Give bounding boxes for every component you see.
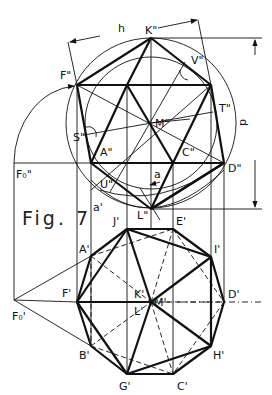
label-K2: K": [145, 24, 157, 37]
label-B1: B': [79, 349, 90, 362]
label-I1: I': [214, 243, 220, 256]
label-M2: M": [155, 117, 170, 130]
label-F0-1: F₀': [12, 310, 26, 323]
label-M1: M': [154, 296, 167, 309]
label-J1: J': [112, 215, 119, 228]
label-h: h: [118, 22, 125, 35]
label-G1: G': [119, 380, 131, 393]
label-U2: U": [100, 178, 113, 191]
label-D2: D": [228, 162, 242, 175]
label-L1: L': [134, 305, 143, 318]
icosahedron-construction-diagram: h K" V" F" T" M" d S" A" C" F₀" D" a U" …: [0, 0, 272, 395]
label-K1: K': [134, 288, 144, 301]
label-E1: E': [176, 215, 186, 228]
top-view: [14, 229, 262, 374]
label-a: a: [154, 168, 161, 181]
label-H1: H': [213, 349, 224, 362]
label-d: d: [237, 119, 250, 126]
label-T2: T": [218, 102, 231, 115]
label-F2: F": [60, 69, 71, 82]
label-a-prime: a': [93, 201, 103, 214]
label-D1: D': [228, 288, 240, 301]
figure-caption: Fig. 7: [22, 207, 91, 229]
label-L2: L": [137, 209, 148, 222]
label-A1: A': [79, 243, 90, 256]
label-C1: C': [177, 380, 188, 393]
front-view: [14, 20, 262, 374]
label-F0-2: F₀": [16, 168, 32, 181]
label-F1: F': [62, 287, 71, 300]
label-A2: A": [100, 146, 113, 159]
label-C2: C": [182, 146, 195, 159]
label-V2: V": [191, 54, 204, 67]
label-S2: S": [73, 131, 85, 144]
